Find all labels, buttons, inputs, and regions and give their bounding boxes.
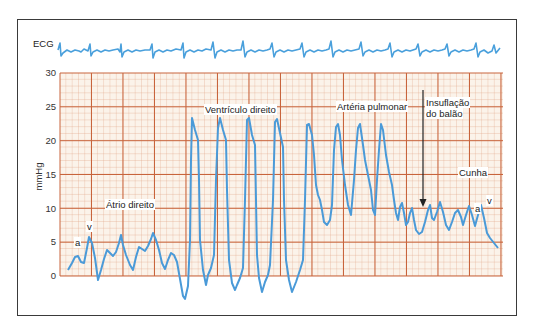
label-balloon-inflation-2: do balão [425, 108, 463, 119]
y-tick-10: 10 [36, 203, 56, 214]
y-axis-label: mmHg [33, 163, 44, 191]
label-balloon-inflation-1: Insuflação [425, 97, 470, 108]
y-tick-20: 20 [36, 135, 56, 146]
pressure-chart [0, 0, 539, 320]
ecg-trace [58, 41, 500, 58]
label-wedge-v-wave: v [486, 195, 493, 206]
y-tick-5: 5 [36, 236, 56, 247]
label-wedge-a-wave: a [474, 203, 481, 214]
label-ra-a-wave: a [74, 237, 81, 248]
label-ra-v-wave: v [86, 221, 93, 232]
y-tick-25: 25 [36, 101, 56, 112]
label-right-atrium: Átrio direito [105, 199, 155, 210]
y-tick-0: 0 [36, 270, 56, 281]
ecg-label: ECG [33, 38, 54, 49]
label-right-ventricle: Ventrículo direito [204, 104, 277, 115]
label-wedge: Cunha [458, 167, 488, 178]
label-pulmonary-artery: Artéria pulmonar [336, 101, 408, 112]
y-tick-30: 30 [36, 67, 56, 78]
